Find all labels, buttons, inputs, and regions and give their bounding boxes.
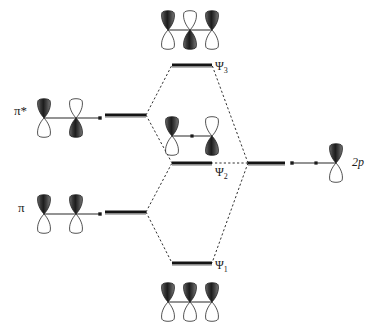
mo-correlation-diagram: π* π Ψ3 Ψ2 Ψ1 2p [0, 0, 379, 330]
orbital-terminus-dot [98, 212, 101, 215]
energy-level-pi [105, 212, 146, 214]
correlation-line-pi-star-to-psi3 [146, 65, 172, 115]
orbital-node-dot [190, 134, 193, 137]
orbital-terminus-dot [290, 161, 293, 164]
p-orbital-lobe-dark [330, 144, 343, 163]
psi2-symbol: Ψ [215, 165, 224, 179]
psi2-label: Ψ2 [215, 166, 228, 181]
p-orbital-lobe-dark [162, 283, 175, 302]
p-orbital-lobe-light [206, 302, 219, 321]
psi1-orbital-picture [162, 283, 219, 322]
p-orbital-lobe-light [162, 30, 175, 49]
p-orbital-lobe-dark [38, 99, 51, 118]
psi1-subscript: 1 [224, 265, 228, 274]
psi3-subscript: 3 [224, 66, 228, 75]
orbital-node-dot [314, 161, 317, 164]
p-orbital-lobe-light [70, 214, 83, 233]
pi-bonding-label: π [18, 201, 25, 214]
p-orbital-lobe-dark [184, 283, 197, 302]
p-orbital-lobe-dark [70, 118, 83, 137]
energy-level-two-p [248, 163, 285, 165]
p-orbital-lobe-light [184, 302, 197, 321]
mo-diagram-canvas [0, 0, 379, 330]
psi2-subscript: 2 [224, 172, 228, 181]
p-orbital-lobe-dark [206, 283, 219, 302]
energy-level-psi1 [172, 263, 212, 265]
psi1-label: Ψ1 [215, 259, 228, 274]
psi1-symbol: Ψ [215, 258, 224, 272]
p-orbital-lobe-dark [38, 195, 51, 214]
p-orbital-lobe-light [184, 11, 197, 30]
p-orbital-lobe-dark [162, 11, 175, 30]
p-orbital-lobe-light [162, 302, 175, 321]
correlation-line-pi-to-psi1 [146, 212, 172, 263]
pi-bonding-orbital-picture [38, 195, 102, 234]
p-orbital-lobe-light [206, 117, 219, 136]
2p-orbital-picture [290, 144, 342, 183]
energy-level-psi3 [172, 65, 212, 67]
p-orbital-lobe-dark [70, 195, 83, 214]
energy-levels-layer [105, 65, 285, 265]
energy-level-psi2 [172, 163, 212, 165]
psi3-symbol: Ψ [215, 59, 224, 73]
pi-antibonding-label: π* [14, 104, 27, 117]
correlation-line-pi-to-psi2 [146, 163, 172, 212]
p-orbital-lobe-dark [206, 136, 219, 155]
orbital-terminus-dot [98, 116, 101, 119]
energy-level-pi-star [105, 115, 146, 117]
p-orbital-lobe-light [70, 99, 83, 118]
p-orbital-lobe-dark [206, 11, 219, 30]
p-orbital-lobe-light [166, 136, 179, 155]
2p-label: 2p [352, 156, 364, 168]
p-orbital-lobe-light [330, 163, 343, 182]
p-orbital-lobe-light [38, 214, 51, 233]
p-orbital-lobe-light [38, 118, 51, 137]
orbital-pictures-layer [38, 11, 343, 322]
pi-antibonding-orbital-picture [38, 99, 102, 138]
p-orbital-lobe-dark [166, 117, 179, 136]
psi3-orbital-picture [162, 11, 219, 50]
p-orbital-lobe-dark [184, 30, 197, 49]
psi2-orbital-picture [166, 117, 219, 156]
psi3-label: Ψ3 [215, 60, 228, 75]
p-orbital-lobe-light [206, 30, 219, 49]
